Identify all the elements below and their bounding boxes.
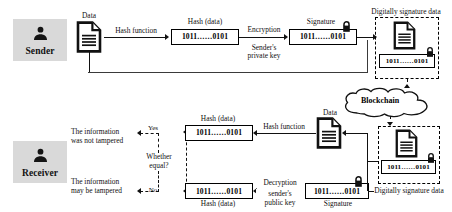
receiver-actor-label: Receiver <box>22 168 58 178</box>
receiver-signed-region-caption: Digitally signature data <box>363 186 452 195</box>
receiver-decryption-label: Decryption <box>256 178 304 187</box>
receiver-decision-line2: equal? <box>135 161 183 170</box>
receiver-data-document-icon <box>316 117 342 149</box>
receiver-signature-caption: Signature <box>310 199 366 208</box>
yes-branch-dashed-vline <box>158 133 159 153</box>
blockchain-label: Blockchain <box>361 96 399 105</box>
receiver-signed-to-data-arrowhead <box>342 130 346 136</box>
sender-data-document-icon <box>76 21 102 53</box>
sender-signed-document-icon <box>393 21 416 50</box>
no-branch-arrowhead <box>137 188 141 194</box>
receiver-hash-function-label: Hash function <box>256 122 312 131</box>
receiver-public-key-line2: public key <box>256 198 304 207</box>
receiver-yes-result-line2: was not tampered <box>71 136 143 145</box>
receiver-hash-bottom-box: 1011……0101 <box>185 183 253 199</box>
yes-branch-dashed-hline <box>140 133 159 134</box>
receiver-hash-bottom-caption: Hash (data) <box>187 199 249 208</box>
sender-signature-to-signed-line <box>357 37 374 38</box>
receiver-hash-top-caption: Hash (data) <box>187 114 249 123</box>
receiver-signed-lock-icon <box>426 152 436 164</box>
yes-branch-arrowhead <box>137 130 141 136</box>
diagram-canvas: Sender Data Hash function Hash (data) 10… <box>0 0 452 212</box>
no-branch-dashed-vline <box>158 171 159 192</box>
receiver-no-result-line2: may be tampered <box>71 186 143 195</box>
person-icon <box>32 147 49 167</box>
receiver-yes-result-line1: The information <box>71 127 139 136</box>
no-branch-dashed-hline <box>140 191 159 192</box>
receiver-public-key-line1: sender's <box>256 189 304 198</box>
sender-hash-box: 1011……0101 <box>171 29 239 45</box>
receiver-yes-branch-label: Yes <box>145 124 161 132</box>
sender-data-to-signed-hline <box>88 72 368 73</box>
sender-signed-lock-icon <box>425 46 435 58</box>
sender-signed-region-caption: Digitally signature data <box>360 7 452 16</box>
sender-hash-arrow-line <box>104 37 166 38</box>
sender-encryption-arrowhead <box>284 34 288 40</box>
receiver-data-doc-label: Data <box>315 108 345 117</box>
receiver-hash-function-line <box>256 133 316 134</box>
sender-signature-lock-icon <box>341 20 352 33</box>
sender-data-to-signed-vline <box>367 40 368 72</box>
person-icon <box>32 25 49 45</box>
sender-actor-chip: Sender <box>13 19 67 61</box>
sender-data-doc-label: Data <box>74 11 104 20</box>
sender-hash-box-caption: Hash (data) <box>174 17 236 26</box>
receiver-signed-document-icon <box>395 129 418 158</box>
receiver-signed-to-data-hline <box>345 133 368 134</box>
sender-actor-label: Sender <box>25 46 54 56</box>
receiver-decision-line1: Whether <box>135 152 183 161</box>
sender-encryption-label: Encryption <box>240 25 288 34</box>
sender-private-key-line2: private key <box>240 51 288 60</box>
receiver-actor-chip: Receiver <box>13 141 67 183</box>
receiver-hash-top-box: 1011……0101 <box>185 125 253 141</box>
receiver-no-result-line1: The information <box>71 177 139 186</box>
receiver-hash-function-arrowhead <box>253 130 257 136</box>
sender-data-branch-vline <box>89 52 90 72</box>
sender-hash-arrowhead <box>165 34 169 40</box>
sender-encryption-arrow-line <box>239 37 285 38</box>
sender-hash-function-label: Hash function <box>110 26 162 35</box>
